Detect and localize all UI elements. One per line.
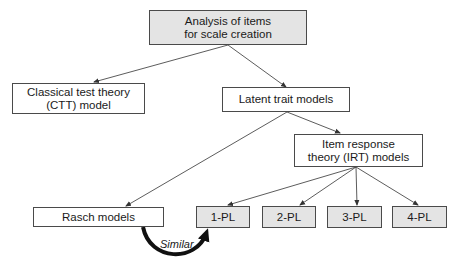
node-label: Latent trait models [239,93,334,106]
node-label: Classical test theory (CTT) model [27,86,130,112]
node-analysis-of-items: Analysis of items for scale creation [149,10,307,45]
node-label: 3-PL [342,211,366,224]
node-label: 4-PL [407,211,431,224]
node-latent-trait-models: Latent trait models [222,87,350,112]
node-label: 1-PL [211,211,235,224]
node-rasch-models: Rasch models [33,207,164,227]
node-3pl: 3-PL [327,206,382,228]
node-label: Item response theory (IRT) models [308,138,409,164]
node-label: 2-PL [277,211,301,224]
node-label: Analysis of items for scale creation [184,15,272,41]
node-irt-models: Item response theory (IRT) models [294,134,423,167]
node-ctt-model: Classical test theory (CTT) model [12,83,145,114]
node-2pl: 2-PL [262,206,316,228]
node-4pl: 4-PL [392,206,447,228]
similar-label: Similar [160,238,194,250]
node-label: Rasch models [62,211,135,224]
node-1pl: 1-PL [196,206,250,228]
